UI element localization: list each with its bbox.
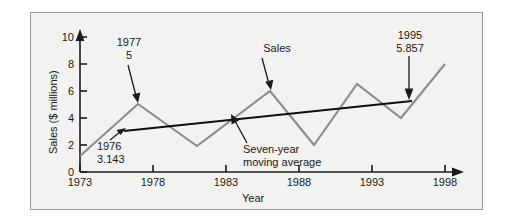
x-tick-label-1973: 1973 <box>58 176 102 188</box>
x-tick-label-1988: 1988 <box>277 176 321 188</box>
x-tick-label-1998: 1998 <box>423 176 467 188</box>
series-moving-average-line <box>124 101 412 131</box>
x-tick-label-1978: 1978 <box>131 176 175 188</box>
y-axis-title: Sales ($ millions) <box>47 70 59 154</box>
callout-1977-value: 5 <box>107 49 151 62</box>
chart-figure: 10 8 6 4 2 0 Sales ($ millions) 1973 197… <box>0 0 516 224</box>
arrow-1977 <box>128 65 140 103</box>
y-tick-label-10: 10 <box>52 31 74 43</box>
callout-sales: Sales <box>255 42 299 55</box>
callout-1995-value: 5.857 <box>387 42 433 55</box>
arrow-1976 <box>110 128 126 140</box>
arrow-1995 <box>405 56 414 100</box>
callout-moving-average-line2: moving average <box>243 156 321 169</box>
x-tick-label-1993: 1993 <box>350 176 394 188</box>
callout-1995-year: 1995 <box>387 29 433 42</box>
callout-1976-year: 1976 <box>97 140 121 153</box>
x-tick-label-1983: 1983 <box>204 176 248 188</box>
callout-1977-year: 1977 <box>107 36 151 49</box>
x-axis-title: Year <box>242 192 264 204</box>
y-tick-label-8: 8 <box>52 58 74 70</box>
callout-1976-value: 3.143 <box>97 153 125 166</box>
callout-moving-average-line1: Seven-year <box>243 143 299 156</box>
plot-canvas <box>0 0 516 224</box>
arrow-sales <box>262 58 273 90</box>
callout-arrows <box>110 56 413 143</box>
